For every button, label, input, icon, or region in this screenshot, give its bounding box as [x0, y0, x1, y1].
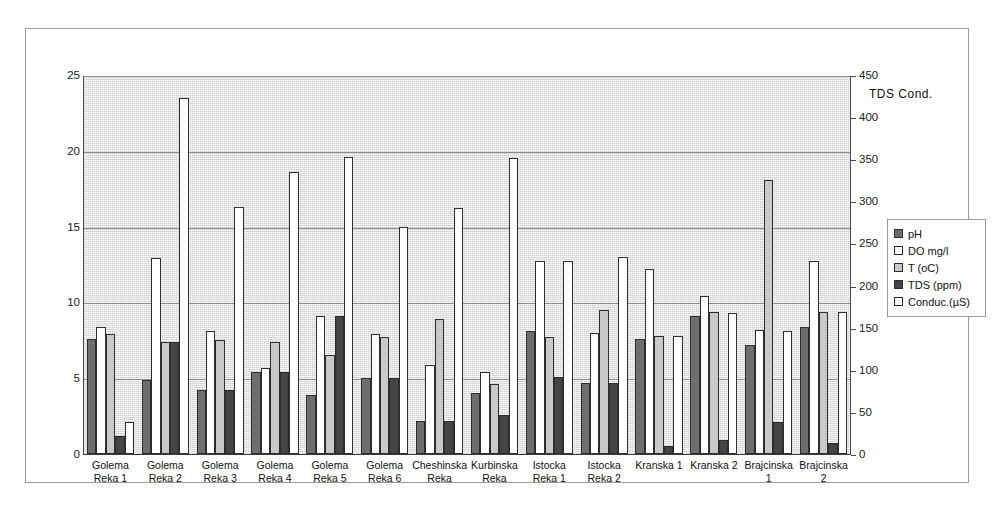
bar[interactable] [361, 378, 370, 454]
bar[interactable] [599, 310, 608, 454]
bar[interactable] [809, 261, 818, 454]
bar[interactable] [87, 339, 96, 454]
bar[interactable] [125, 422, 134, 454]
bar[interactable] [435, 319, 444, 454]
secondary-tick-label: 150 [859, 323, 878, 335]
secondary-tick-mark [851, 287, 856, 288]
category-label-line: Cheshinska [412, 459, 467, 472]
bar[interactable] [335, 316, 344, 454]
bar[interactable] [700, 296, 709, 454]
legend-item[interactable]: T (oC) [894, 259, 980, 276]
legend-item[interactable]: Conduc.(µS) [894, 293, 980, 310]
bar[interactable] [96, 327, 105, 454]
bar[interactable] [344, 157, 353, 454]
bar[interactable] [545, 337, 554, 454]
category-label-line: Reka 3 [193, 472, 248, 485]
bar[interactable] [151, 258, 160, 454]
bar[interactable] [225, 390, 234, 454]
bar[interactable] [563, 261, 572, 454]
bar[interactable] [179, 98, 188, 454]
bar[interactable] [690, 316, 699, 454]
bar[interactable] [399, 227, 408, 454]
bar[interactable] [800, 327, 809, 454]
bar[interactable] [654, 336, 663, 454]
chart-legend: pHDO mg/lT (oC)TDS (ppm)Conduc.(µS) [887, 219, 986, 317]
bar[interactable] [142, 380, 151, 454]
bar[interactable] [251, 372, 260, 454]
bar[interactable] [645, 269, 654, 454]
legend-item[interactable]: DO mg/l [894, 242, 980, 259]
bar[interactable] [306, 395, 315, 454]
bar[interactable] [380, 337, 389, 454]
bar[interactable] [416, 421, 425, 454]
bar[interactable] [499, 415, 508, 454]
category-label: GolemaReka 3 [193, 459, 248, 485]
bar[interactable] [261, 368, 270, 454]
bar[interactable] [270, 342, 279, 454]
bar[interactable] [673, 336, 682, 454]
bar[interactable] [371, 334, 380, 454]
bar[interactable] [590, 333, 599, 454]
legend-item[interactable]: pH [894, 225, 980, 242]
bar[interactable] [709, 312, 718, 455]
secondary-tick-mark [851, 413, 856, 414]
bar[interactable] [554, 377, 563, 454]
bar[interactable] [664, 446, 673, 454]
primary-tick-label: 15 [56, 222, 80, 234]
bar[interactable] [234, 207, 243, 454]
bar[interactable] [755, 330, 764, 454]
bar[interactable] [480, 372, 489, 454]
bar[interactable] [170, 342, 179, 454]
bar-group [248, 76, 303, 454]
bar[interactable] [115, 436, 124, 454]
bar[interactable] [526, 331, 535, 454]
bar[interactable] [819, 312, 828, 455]
bar[interactable] [316, 316, 325, 454]
category-label: GolemaReka 4 [248, 459, 303, 485]
bar[interactable] [581, 383, 590, 454]
bar[interactable] [197, 390, 206, 454]
category-label: GolemaReka 6 [357, 459, 412, 485]
bar[interactable] [828, 443, 837, 454]
bar[interactable] [728, 313, 737, 454]
category-label-line: Reka 2 [577, 472, 632, 485]
bar[interactable] [764, 180, 773, 454]
bar[interactable] [719, 440, 728, 454]
bar-group [193, 76, 248, 454]
category-label-line: Reka 1 [522, 472, 577, 485]
legend-item-label: T (oC) [908, 262, 939, 274]
primary-tick-label: 0 [56, 449, 80, 461]
bar[interactable] [509, 158, 518, 454]
legend-item[interactable]: TDS (ppm) [894, 276, 980, 293]
bar[interactable] [618, 257, 627, 454]
bar[interactable] [490, 384, 499, 454]
bar[interactable] [106, 334, 115, 454]
category-label: GolemaReka 5 [302, 459, 357, 485]
bar[interactable] [206, 331, 215, 454]
bar[interactable] [325, 355, 334, 454]
category-label-line: Kranska 2 [686, 459, 741, 472]
bar-group [412, 76, 467, 454]
bar[interactable] [535, 261, 544, 454]
category-axis-line [83, 454, 851, 455]
bar[interactable] [161, 342, 170, 454]
bar[interactable] [280, 372, 289, 454]
bar-group [577, 76, 632, 454]
legend-swatch-icon [894, 246, 903, 255]
bar[interactable] [745, 345, 754, 454]
bar[interactable] [389, 378, 398, 454]
bar[interactable] [783, 331, 792, 454]
bar[interactable] [773, 422, 782, 454]
bar[interactable] [635, 339, 644, 454]
bar[interactable] [609, 383, 618, 454]
bar[interactable] [471, 393, 480, 454]
bar[interactable] [215, 340, 224, 454]
bar[interactable] [838, 312, 847, 455]
bar[interactable] [454, 208, 463, 454]
bar[interactable] [444, 421, 453, 454]
bar[interactable] [425, 365, 434, 454]
secondary-tick-label: 400 [859, 112, 878, 124]
bar[interactable] [289, 172, 298, 454]
plot-area [83, 76, 851, 455]
category-label-line: Reka 4 [248, 472, 303, 485]
